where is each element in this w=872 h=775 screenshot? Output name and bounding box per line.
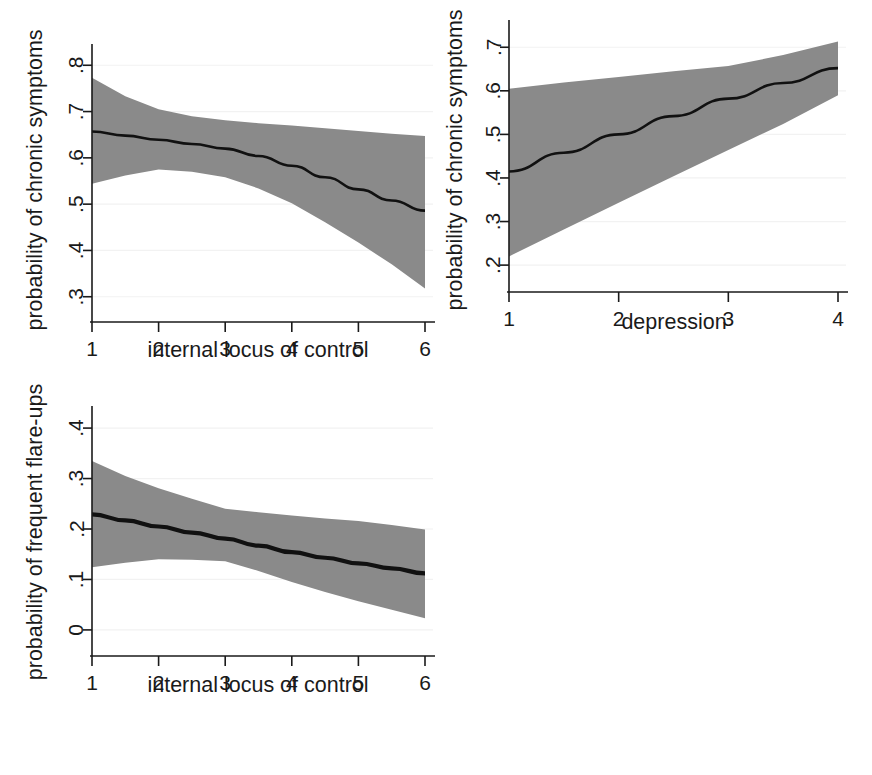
- x-tick-label: 4: [832, 307, 844, 330]
- panel-2-yticks: .2.3.4.5.6.7: [482, 38, 510, 273]
- y-tick-label: .7: [482, 38, 505, 56]
- panel-3-band-group: [92, 461, 425, 618]
- y-tick-label: .5: [65, 195, 88, 213]
- confidence-band: [92, 78, 425, 289]
- y-tick-label: .6: [482, 82, 505, 100]
- panel-2-band-group: [509, 42, 838, 257]
- panel-3-svg: 0.1.2.3.4 123456 probability of frequent…: [0, 372, 450, 775]
- x-tick-label: 1: [86, 337, 98, 360]
- chart-panel-2: .2.3.4.5.6.7 1234 probability of chronic…: [422, 0, 872, 385]
- confidence-band: [509, 42, 838, 257]
- x-tick-label: 1: [86, 671, 98, 694]
- y-tick-label: .2: [482, 256, 505, 274]
- x-tick-label: 1: [503, 307, 515, 330]
- y-tick-label: .1: [65, 571, 88, 589]
- y-tick-label: .4: [65, 241, 88, 259]
- panel-2-y-axis-title: probability of chronic symptoms: [443, 9, 467, 310]
- figure-canvas: .3.4.5.6.7.8 123456 probability of chron…: [0, 0, 872, 775]
- panel-3-x-axis-title: internal locus of control: [147, 673, 368, 697]
- y-tick-label: .4: [482, 169, 505, 187]
- panel-1-svg: .3.4.5.6.7.8 123456 probability of chron…: [0, 0, 450, 385]
- y-tick-label: .7: [65, 103, 88, 121]
- panel-1-band-group: [92, 78, 425, 289]
- confidence-band: [92, 461, 425, 618]
- y-tick-label: .4: [65, 419, 88, 437]
- y-tick-label: .8: [65, 57, 88, 75]
- panel-1-x-axis-title: internal locus of control: [147, 338, 368, 362]
- y-tick-label: 0: [65, 624, 88, 636]
- panel-2-svg: .2.3.4.5.6.7 1234 probability of chronic…: [422, 0, 872, 385]
- y-tick-label: .5: [482, 126, 505, 144]
- y-tick-label: .6: [65, 149, 88, 167]
- y-tick-label: .2: [65, 520, 88, 538]
- panel-2-x-axis-title: depression: [621, 310, 726, 334]
- panel-3-yticks: 0.1.2.3.4: [65, 419, 93, 636]
- x-tick-label: 6: [419, 671, 431, 694]
- chart-panel-3: 0.1.2.3.4 123456 probability of frequent…: [0, 372, 450, 775]
- panel-1-yticks: .3.4.5.6.7.8: [65, 57, 93, 306]
- y-tick-label: .3: [65, 470, 88, 488]
- chart-panel-1: .3.4.5.6.7.8 123456 probability of chron…: [0, 0, 450, 385]
- y-tick-label: .3: [65, 288, 88, 306]
- panel-3-y-axis-title: probability of frequent flare-ups: [23, 384, 47, 680]
- panel-1-y-axis-title: probability of chronic symptoms: [23, 29, 47, 330]
- y-tick-label: .3: [482, 213, 505, 231]
